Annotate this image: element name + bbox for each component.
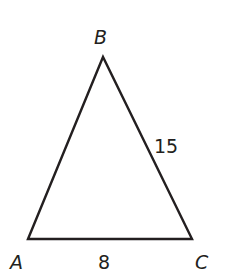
triangle-diagram: B A C 8 15 xyxy=(0,0,226,280)
vertex-label-c: C xyxy=(195,251,209,273)
side-label-bc: 15 xyxy=(154,135,178,157)
side-label-ac: 8 xyxy=(98,251,110,273)
vertex-label-a: A xyxy=(8,251,23,273)
vertex-label-b: B xyxy=(94,26,107,48)
